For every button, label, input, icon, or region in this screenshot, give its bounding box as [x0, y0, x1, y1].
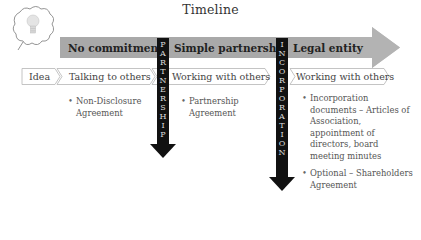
milestone-letter: T: [157, 67, 169, 76]
milestone-incorporation: I N C O R P O R A T I O N: [276, 38, 288, 181]
milestone-letter: P: [157, 130, 169, 139]
milestone-letter: N: [276, 148, 288, 157]
milestone-letter: A: [276, 112, 288, 121]
documents-no-commitment: Non-Disclosure Agreement: [68, 96, 150, 125]
milestone-letter: O: [276, 94, 288, 103]
milestone-letter: R: [157, 94, 169, 103]
milestone-letter: O: [276, 67, 288, 76]
document-item: Partnership Agreement: [181, 96, 261, 119]
milestone-letter: O: [276, 139, 288, 148]
milestone-letter: I: [276, 130, 288, 139]
milestone-letter: N: [276, 49, 288, 58]
step-idea: Idea: [29, 69, 50, 85]
milestone-letter: T: [276, 121, 288, 130]
milestone-partnership: P A R T N E R S H I P: [157, 38, 169, 148]
step-working-with-others-legal: Working with others: [296, 69, 394, 85]
milestone-letter: S: [157, 103, 169, 112]
step-working-with-others-partnership: Working with others: [172, 69, 270, 85]
milestone-letter: R: [157, 58, 169, 67]
milestone-letter: A: [157, 49, 169, 58]
documents-legal-entity: Incorporation documents – Articles of As…: [302, 93, 414, 197]
document-item: Non-Disclosure Agreement: [68, 96, 150, 119]
milestone-letter: R: [276, 103, 288, 112]
milestone-letter: R: [276, 76, 288, 85]
step-talking-to-others: Talking to others: [69, 69, 151, 85]
document-item: Optional – Shareholders Agreement: [302, 168, 414, 191]
milestone-letter: I: [157, 121, 169, 130]
document-item: Incorporation documents – Articles of As…: [302, 93, 414, 162]
milestone-letter: P: [276, 85, 288, 94]
milestone-letter: N: [157, 76, 169, 85]
milestone-letter: E: [157, 85, 169, 94]
milestone-letter: I: [276, 40, 288, 49]
documents-simple-partnership: Partnership Agreement: [181, 96, 261, 125]
milestone-letter: H: [157, 112, 169, 121]
arrow-down-icon: [150, 144, 176, 158]
arrow-down-icon: [269, 177, 295, 191]
milestone-letter: P: [157, 40, 169, 49]
milestone-letter: C: [276, 58, 288, 67]
